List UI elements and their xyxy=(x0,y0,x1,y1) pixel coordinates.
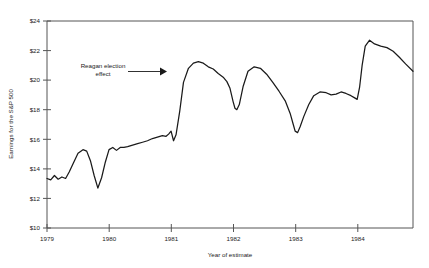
y-tick-label-10: $10 xyxy=(30,224,41,231)
y-tick-label-14: $14 xyxy=(30,165,41,172)
chart-figure: $24 $22 $20 $18 $16 $14 $12 $10 1979 198… xyxy=(0,0,429,268)
y-axis-tick-labels: $24 $22 $20 $18 $16 $14 $12 $10 xyxy=(30,17,41,231)
x-tick-label-1980: 1980 xyxy=(102,235,116,242)
y-tick-label-20: $20 xyxy=(30,76,41,83)
x-axis-tick-labels: 1979 1980 1981 1982 1983 1984 xyxy=(40,235,365,242)
x-tick-label-1983: 1983 xyxy=(289,235,303,242)
x-axis-title: Year of estimate xyxy=(208,251,253,258)
annotation-reagan-election-effect: Reagan election effect xyxy=(81,62,167,77)
y-tick-label-16: $16 xyxy=(30,136,41,143)
plot-frame xyxy=(47,21,413,228)
x-tick-label-1982: 1982 xyxy=(227,235,241,242)
chart-svg: $24 $22 $20 $18 $16 $14 $12 $10 1979 198… xyxy=(0,0,429,268)
y-tick-label-22: $22 xyxy=(30,47,41,54)
annotation-line-2: effect xyxy=(95,70,110,77)
y-tick-label-18: $18 xyxy=(30,106,41,113)
x-tick-label-1981: 1981 xyxy=(164,235,178,242)
y-axis-title: Earnings for the S&P 500 xyxy=(7,89,14,159)
y-tick-label-12: $12 xyxy=(30,195,41,202)
annotation-line-1: Reagan election xyxy=(81,62,126,69)
y-tick-label-24: $24 xyxy=(30,17,41,24)
x-tick-label-1984: 1984 xyxy=(351,235,365,242)
annotation-arrow-head xyxy=(160,68,167,76)
x-tick-label-1979: 1979 xyxy=(40,235,54,242)
